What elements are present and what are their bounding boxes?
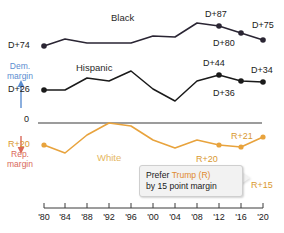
series-label-white: White <box>97 152 121 163</box>
dem-margin-axis-label: Dem. margin <box>2 62 38 81</box>
series-point-black <box>216 23 222 29</box>
trump-margin-callout: Prefer Trump (R) by 15 point margin <box>139 165 243 197</box>
point-label-white-2012: R+20 <box>196 154 218 164</box>
series-label-black: Black <box>111 12 134 23</box>
dem-margin-line2: margin <box>2 72 38 82</box>
rep-margin-line2: margin <box>2 160 38 170</box>
series-label-hispanic: Hispanic <box>76 62 112 73</box>
series-point-black <box>260 37 266 43</box>
point-label-white-2016: R+21 <box>231 131 253 141</box>
series-point-hispanic <box>260 79 266 85</box>
x-axis-ticks <box>44 203 263 208</box>
point-label-hispanic-2020: D+34 <box>251 65 273 75</box>
point-label-black-2016: D+80 <box>213 38 235 48</box>
point-label-white-2020: R+15 <box>251 180 273 190</box>
point-label-black-2020: D+75 <box>252 20 274 30</box>
chart-plot-area <box>0 0 284 233</box>
callout-line2: by 15 point margin <box>146 181 237 192</box>
series-point-hispanic <box>41 87 47 93</box>
series-point-hispanic <box>216 72 222 78</box>
callout-highlight: Trump (R) <box>172 170 211 180</box>
callout-line1: Prefer Trump (R) <box>146 170 237 181</box>
series-point-white <box>41 142 46 147</box>
point-label-black-1980: D+74 <box>8 40 30 50</box>
point-label-hispanic-2012: D+44 <box>203 58 225 68</box>
point-label-white-1980: R+20 <box>8 139 30 149</box>
series-point-black <box>238 30 244 36</box>
x-tick-label-2020: '20 <box>249 212 277 222</box>
election-margin-chart: Dem. margin Rep. margin 0 Black Hispanic… <box>0 0 284 233</box>
series-point-black <box>41 43 47 49</box>
zero-axis-label: 0 <box>24 114 29 124</box>
point-label-black-2012: D+87 <box>205 9 227 19</box>
point-label-hispanic-1980: D+26 <box>8 84 30 94</box>
rep-margin-axis-label: Rep. margin <box>2 150 38 169</box>
point-label-hispanic-2016: D+36 <box>213 88 235 98</box>
series-point-white <box>260 134 265 139</box>
series-point-white <box>238 144 243 149</box>
series-point-hispanic <box>238 78 244 84</box>
callout-prefix: Prefer <box>146 170 172 180</box>
series-point-white <box>216 142 221 147</box>
